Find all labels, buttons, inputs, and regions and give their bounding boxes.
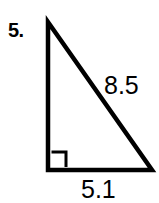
base-length-label: 5.1: [81, 177, 116, 202]
right-triangle-drawing: [0, 0, 159, 203]
hypotenuse-length-label: 8.5: [104, 73, 139, 98]
right-angle-square-icon: [52, 152, 67, 167]
geometry-figure: 5. 8.5 5.1: [0, 0, 159, 203]
